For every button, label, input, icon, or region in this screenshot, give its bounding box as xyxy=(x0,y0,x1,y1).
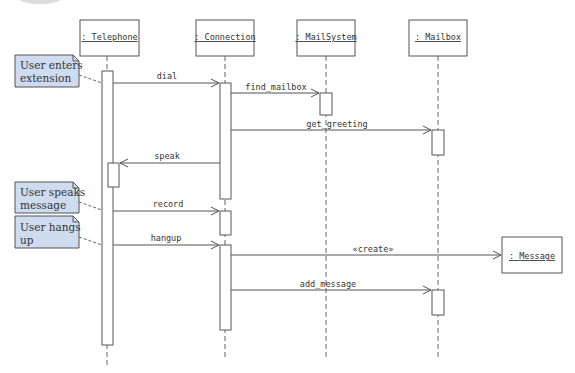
object-message: : Message xyxy=(502,237,562,273)
object-label: : Connection xyxy=(194,32,255,42)
object-label: : Mailbox xyxy=(415,32,461,42)
object-telephone: : Telephone xyxy=(80,20,139,56)
note-user-speaks-message: User speaks message xyxy=(15,182,102,213)
svg-text:get_greeting: get_greeting xyxy=(306,119,367,129)
message-create: «create» xyxy=(231,244,501,259)
note-user-hangs-up: User hangs up xyxy=(15,216,102,248)
object-label: : MailSystem xyxy=(295,32,356,42)
object-mailsystem: : MailSystem xyxy=(295,20,356,56)
activation-mailsystem xyxy=(320,93,332,115)
svg-text:dial: dial xyxy=(157,71,177,81)
message-hangup: hangup xyxy=(113,233,219,249)
message-find-mailbox: find_mailbox xyxy=(231,82,319,97)
svg-text:extension: extension xyxy=(20,72,71,84)
svg-text:up: up xyxy=(20,234,34,246)
message-speak: speak xyxy=(120,151,220,167)
note-user-enters-extension: User enters extension xyxy=(15,55,102,87)
message-add-message: add_message xyxy=(231,279,431,294)
svg-text:«create»: «create» xyxy=(353,244,394,254)
object-mailbox: : Mailbox xyxy=(409,20,467,56)
svg-text:User enters: User enters xyxy=(20,59,83,71)
activation-mailbox-add xyxy=(432,290,444,315)
svg-text:record: record xyxy=(153,199,184,209)
svg-text:message: message xyxy=(20,199,66,211)
svg-text:speak: speak xyxy=(154,151,180,161)
message-get-greeting: get_greeting xyxy=(231,119,431,134)
svg-text:find_mailbox: find_mailbox xyxy=(245,82,306,92)
svg-text:User speaks: User speaks xyxy=(20,186,85,198)
object-connection: : Connection xyxy=(194,20,255,56)
decorative-shape xyxy=(16,0,64,4)
svg-text:hangup: hangup xyxy=(151,233,182,243)
activation-telephone xyxy=(102,71,113,345)
svg-text:User hangs: User hangs xyxy=(20,221,81,233)
object-label: : Telephone xyxy=(81,32,137,42)
activation-connection-dial xyxy=(220,83,231,199)
sequence-diagram: : Telephone : Connection : MailSystem : … xyxy=(0,0,575,373)
object-label: : Message xyxy=(509,251,555,261)
svg-text:add_message: add_message xyxy=(300,279,356,289)
activation-mailbox-greeting xyxy=(432,130,444,155)
activation-connection-hangup xyxy=(220,245,231,330)
activation-telephone-speak xyxy=(108,163,119,187)
message-record: record xyxy=(113,199,219,215)
message-dial: dial xyxy=(113,71,219,87)
activation-connection-record xyxy=(220,211,231,235)
